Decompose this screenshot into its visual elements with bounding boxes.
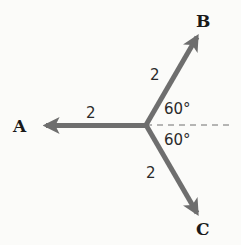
label-b: B <box>196 11 210 31</box>
magnitude-b: 2 <box>150 66 160 84</box>
label-a: A <box>12 116 27 136</box>
angle-b-label: 60° <box>164 100 191 118</box>
label-c: C <box>196 219 210 239</box>
magnitude-c: 2 <box>146 164 156 182</box>
magnitude-a: 2 <box>86 104 96 122</box>
vector-diagram: A B C 2 2 2 60° 60° <box>0 0 241 245</box>
angle-c-label: 60° <box>164 131 191 149</box>
